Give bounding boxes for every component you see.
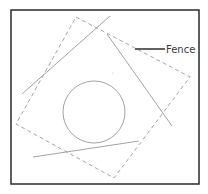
center-dot [112,72,113,73]
fence-selection-diagram: Fence [0,0,208,194]
frame-border [11,10,199,184]
fence-label: Fence [166,44,195,55]
